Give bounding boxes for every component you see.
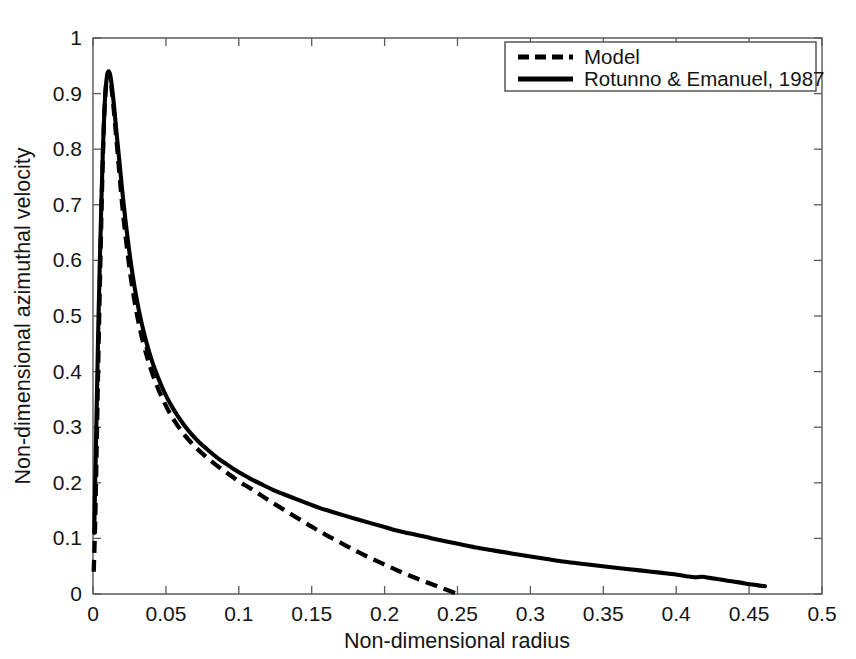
x-axis-title: Non-dimensional radius bbox=[344, 629, 570, 653]
y-tick-label-4: 0.4 bbox=[53, 360, 83, 383]
y-axis-ticks bbox=[93, 38, 822, 594]
y-tick-label-8: 0.8 bbox=[53, 137, 82, 160]
x-tick-label-5: 0.25 bbox=[437, 602, 478, 625]
y-tick-label-10: 1 bbox=[70, 26, 82, 49]
x-tick-label-4: 0.2 bbox=[370, 602, 399, 625]
y-tick-label-0: 0 bbox=[70, 582, 82, 605]
x-axis-tick-labels: 00.050.10.150.20.250.30.350.40.450.5 bbox=[87, 602, 836, 625]
chart-legend: Model Rotunno & Emanuel, 1987 bbox=[505, 42, 824, 91]
y-tick-label-9: 0.9 bbox=[53, 82, 82, 105]
x-tick-label-9: 0.45 bbox=[729, 602, 770, 625]
chart-canvas: 00.050.10.150.20.250.30.350.40.450.5 00.… bbox=[0, 0, 856, 659]
y-tick-label-3: 0.3 bbox=[53, 415, 82, 438]
y-axis-title: Non-dimensional azimuthal velocity bbox=[11, 147, 35, 484]
x-tick-label-8: 0.4 bbox=[662, 602, 692, 625]
figure-container: 00.050.10.150.20.250.30.350.40.450.5 00.… bbox=[0, 0, 856, 659]
y-axis-tick-labels: 00.10.20.30.40.50.60.70.80.91 bbox=[53, 26, 83, 605]
x-tick-label-3: 0.15 bbox=[291, 602, 332, 625]
y-tick-label-6: 0.6 bbox=[53, 248, 82, 271]
legend-label-rotunno-emanuel: Rotunno & Emanuel, 1987 bbox=[584, 67, 824, 90]
series-model bbox=[94, 72, 456, 593]
data-series-group bbox=[94, 71, 765, 593]
x-axis-ticks bbox=[93, 38, 822, 594]
y-tick-label-2: 0.2 bbox=[53, 471, 82, 494]
y-tick-label-1: 0.1 bbox=[53, 526, 82, 549]
x-tick-label-6: 0.3 bbox=[516, 602, 545, 625]
y-tick-label-5: 0.5 bbox=[53, 304, 82, 327]
y-tick-label-7: 0.7 bbox=[53, 193, 82, 216]
axis-frame bbox=[93, 38, 822, 594]
x-tick-label-10: 0.5 bbox=[807, 602, 836, 625]
x-tick-label-0: 0 bbox=[87, 602, 99, 625]
x-tick-label-2: 0.1 bbox=[224, 602, 253, 625]
x-tick-label-7: 0.35 bbox=[583, 602, 624, 625]
series-rotunno-emanuel bbox=[94, 71, 765, 586]
x-tick-label-1: 0.05 bbox=[145, 602, 186, 625]
legend-label-model: Model bbox=[584, 45, 640, 68]
